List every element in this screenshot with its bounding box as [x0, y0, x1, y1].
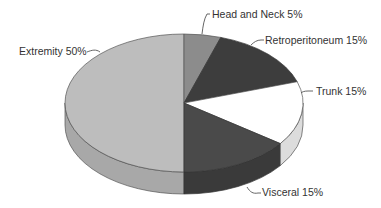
label-head-and-neck: Head and Neck 5% [212, 8, 302, 20]
leader-trunk [301, 91, 313, 93]
leader-extremity [87, 50, 100, 52]
leader-retroperitoneum [251, 40, 264, 45]
pie-chart: Head and Neck 5% Retroperitoneum 15% Tru… [0, 0, 381, 208]
label-trunk: Trunk 15% [316, 85, 366, 97]
label-visceral: Visceral 15% [262, 186, 323, 198]
leader-head-and-neck [202, 14, 210, 34]
leader-visceral [247, 187, 261, 193]
label-extremity: Extremity 50% [19, 45, 87, 57]
label-retroperitoneum: Retroperitoneum 15% [265, 34, 367, 46]
pie-top-face [65, 34, 303, 172]
